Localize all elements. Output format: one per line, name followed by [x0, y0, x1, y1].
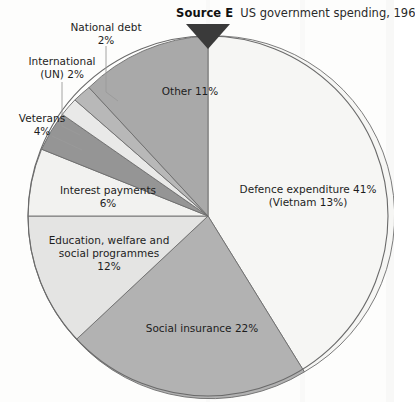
slice-label-interest-payments: Interest payments 6%	[42, 184, 174, 210]
slice-label-national-debt: National debt 2%	[46, 21, 166, 47]
slice-label-international-un: International (UN) 2%	[8, 55, 116, 81]
slice-label-other: Other 11%	[140, 85, 240, 98]
slice-label-education-welfare-social: Education, welfare and social programmes…	[34, 234, 184, 273]
slice-label-social-insurance: Social insurance 22%	[122, 322, 282, 335]
slice-label-defence-expenditure: Defence expenditure 41% (Vietnam 13%)	[228, 183, 388, 209]
slice-label-veterans: Veterans 4%	[4, 112, 80, 138]
